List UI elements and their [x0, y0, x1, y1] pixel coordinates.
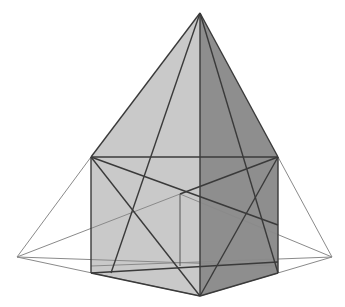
prism-pyramid-figure [0, 0, 345, 307]
right-face [200, 13, 278, 296]
left-face [91, 13, 200, 296]
diagram-canvas [0, 0, 345, 307]
